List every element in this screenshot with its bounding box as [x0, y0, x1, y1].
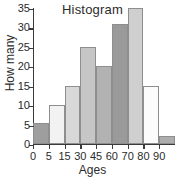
x-tick-label: 90 [153, 150, 165, 162]
x-tick-label: 5 [46, 150, 52, 162]
y-tick-label: 35 [18, 2, 30, 14]
y-axis-label: How many [3, 25, 17, 101]
histogram-bar [96, 66, 112, 144]
histogram-bar [65, 86, 81, 144]
plot-area: 05101520253035 0515304560708090 [33, 8, 175, 145]
x-tick-mark [143, 144, 144, 149]
histogram-bar [49, 105, 65, 144]
histogram-bar [33, 123, 49, 144]
histogram-bar [80, 47, 96, 144]
y-tick-label: 5 [24, 119, 30, 131]
x-tick-mark [128, 144, 129, 149]
x-tick-label: 60 [106, 150, 118, 162]
y-tick-label: 25 [18, 41, 30, 53]
x-tick-mark [33, 144, 34, 149]
histogram-bar [128, 8, 144, 144]
x-axis-label: Ages [0, 163, 185, 177]
x-tick-label: 80 [137, 150, 149, 162]
histogram-bar [112, 24, 128, 144]
bars-layer [33, 8, 175, 145]
histogram-bar [159, 136, 175, 144]
x-tick-mark [112, 144, 113, 149]
x-tick-label: 0 [30, 150, 36, 162]
y-tick-label: 20 [18, 60, 30, 72]
x-tick-label: 15 [58, 150, 70, 162]
y-tick-label: 30 [18, 21, 30, 33]
x-tick-mark [65, 144, 66, 149]
x-tick-mark [159, 144, 160, 149]
y-tick-label: 15 [18, 80, 30, 92]
x-tick-mark [96, 144, 97, 149]
x-tick-mark [80, 144, 81, 149]
y-tick-label: 0 [24, 138, 30, 150]
histogram-bar [143, 86, 159, 144]
histogram-chart: Histogram How many 05101520253035 051530… [0, 0, 185, 184]
x-tick-label: 45 [90, 150, 102, 162]
x-tick-label: 30 [74, 150, 86, 162]
x-tick-label: 70 [122, 150, 134, 162]
x-tick-mark [49, 144, 50, 149]
y-tick-label: 10 [18, 99, 30, 111]
